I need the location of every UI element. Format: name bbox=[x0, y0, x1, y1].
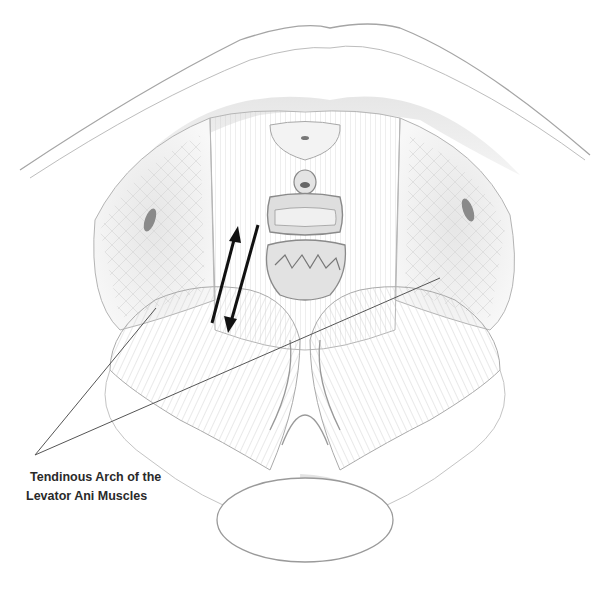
levator-ani-right bbox=[310, 287, 500, 470]
tendinous-arch-label: Tendinous Arch of the Levator Ani Muscle… bbox=[26, 468, 161, 506]
bottom-oval bbox=[217, 478, 393, 562]
label-line-2: Levator Ani Muscles bbox=[26, 487, 161, 506]
label-line-1: Tendinous Arch of the bbox=[26, 468, 161, 487]
anatomical-figure: Tendinous Arch of the Levator Ani Muscle… bbox=[0, 0, 609, 595]
levator-ani-left bbox=[110, 287, 300, 470]
